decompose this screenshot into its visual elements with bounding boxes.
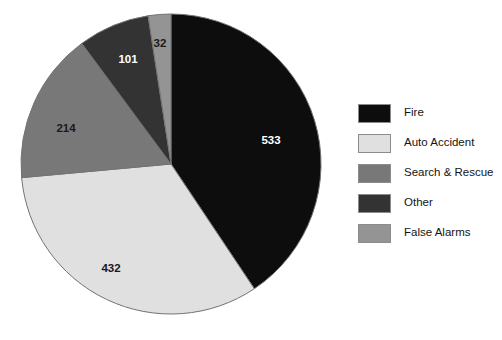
pie-slice-value-label: 101 bbox=[118, 53, 138, 65]
pie-slice-value-label: 214 bbox=[56, 122, 76, 134]
legend-item-fire[interactable]: Fire bbox=[358, 100, 502, 126]
pie-slice-value-label: 432 bbox=[101, 262, 120, 274]
legend-swatch-false-alarms bbox=[358, 224, 391, 243]
pie-svg: 53343221410132 bbox=[0, 0, 340, 340]
legend-label-auto-accident: Auto Accident bbox=[404, 137, 474, 149]
pie-plot-area: 53343221410132 bbox=[0, 0, 340, 340]
legend-item-false-alarms[interactable]: False Alarms bbox=[358, 220, 502, 246]
pie-slice-value-label: 32 bbox=[154, 37, 167, 49]
pie-slice-value-label: 533 bbox=[261, 134, 280, 146]
legend-swatch-search-and-rescue bbox=[358, 164, 391, 183]
legend-label-search-and-rescue: Search & Rescue bbox=[404, 167, 494, 179]
chart-legend: Fire Auto Accident Search & Rescue Other… bbox=[358, 100, 502, 250]
legend-swatch-auto-accident bbox=[358, 134, 391, 153]
legend-label-false-alarms: False Alarms bbox=[404, 227, 470, 239]
pie-slice-group bbox=[21, 14, 321, 314]
legend-label-fire: Fire bbox=[404, 107, 424, 119]
legend-label-other: Other bbox=[404, 197, 433, 209]
legend-swatch-other bbox=[358, 194, 391, 213]
legend-item-other[interactable]: Other bbox=[358, 190, 502, 216]
legend-item-auto-accident[interactable]: Auto Accident bbox=[358, 130, 502, 156]
legend-item-search-and-rescue[interactable]: Search & Rescue bbox=[358, 160, 502, 186]
legend-swatch-fire bbox=[358, 104, 391, 123]
pie-chart: 53343221410132 Fire Auto Accident Search… bbox=[0, 0, 502, 340]
